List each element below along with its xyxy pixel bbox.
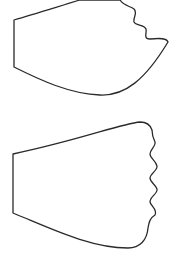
top-template-shape (14, 0, 168, 95)
drawing-canvas (0, 0, 182, 260)
bottom-template-shape (13, 122, 157, 248)
